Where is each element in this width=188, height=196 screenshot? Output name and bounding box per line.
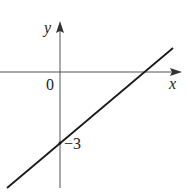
y-axis-label: y <box>42 19 52 37</box>
y-axis <box>56 21 64 188</box>
y-intercept-label: −3 <box>64 135 81 152</box>
graph-canvas: y x 0 −3 <box>0 0 188 196</box>
y-intercept-point <box>59 142 62 145</box>
origin-label: 0 <box>46 76 54 93</box>
x-axis-label: x <box>168 75 176 92</box>
plotted-line <box>7 48 173 188</box>
x-axis <box>0 68 182 76</box>
